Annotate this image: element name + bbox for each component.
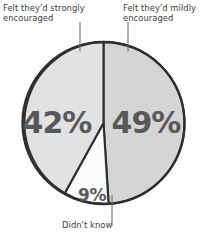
pie-chart: 42% 49% 9% Felt they'd strongly encourag…	[0, 0, 205, 236]
pie-chart-canvas: 42% 49% 9%	[0, 0, 205, 236]
callout-label-strongly-encouraged: Felt they'd strongly encouraged	[3, 3, 85, 24]
callout-label-dont-know: Didn't know	[62, 220, 112, 230]
slice-value-dont-know: 9%	[78, 185, 106, 205]
slice-value-mildly: 49%	[112, 105, 182, 140]
callout-label-mildly-encouraged: Felt they'd mildly encouraged	[123, 3, 196, 24]
slice-value-strongly: 42%	[23, 105, 93, 140]
